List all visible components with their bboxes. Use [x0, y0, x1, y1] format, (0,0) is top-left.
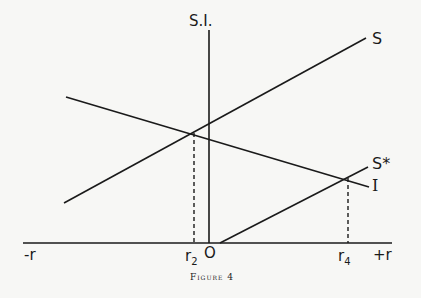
- label-s-star: S*: [372, 156, 390, 172]
- y-axis-label: S.I.: [189, 14, 212, 29]
- curve-s-star: [220, 167, 368, 243]
- curve-s: [64, 38, 366, 203]
- label-i: I: [372, 178, 378, 194]
- x-axis-right-label: +r: [373, 248, 392, 263]
- r2-label: r2: [185, 249, 198, 267]
- origin-label: O: [204, 246, 216, 261]
- label-s: S: [372, 31, 382, 47]
- r4-label: r4: [338, 249, 351, 267]
- curve-i: [66, 97, 369, 187]
- x-axis-left-label: -r: [24, 248, 36, 263]
- figure-caption: Figure 4: [190, 272, 234, 282]
